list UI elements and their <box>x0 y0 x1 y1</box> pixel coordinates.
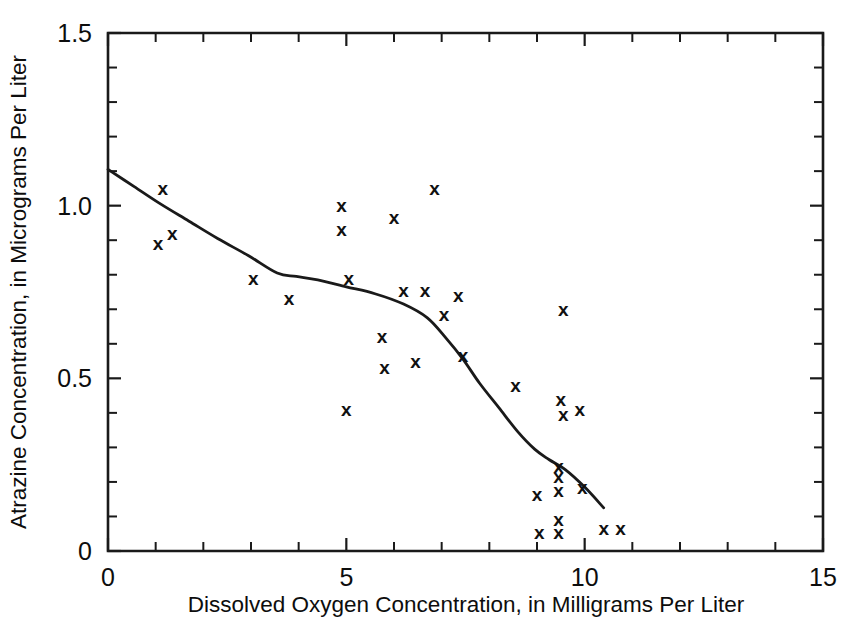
data-point-marker: x <box>398 280 409 301</box>
data-point-marker: x <box>377 326 388 347</box>
data-point-marker: x <box>429 178 440 199</box>
scatter-plot-svg: 05101500.51.01.5 xxxxxxxxxxxxxxxxxxxxxxx… <box>0 0 849 632</box>
x-tick-label: 10 <box>571 563 599 591</box>
data-point-marker: x <box>439 304 450 325</box>
y-tick-label: 0 <box>78 537 92 565</box>
x-tick-label: 15 <box>809 563 837 591</box>
x-axis-title: Dissolved Oxygen Concentration, in Milli… <box>188 592 745 617</box>
data-point-marker: x <box>153 233 164 254</box>
data-point-marker: x <box>343 268 354 289</box>
data-point-marker: x <box>534 522 545 543</box>
data-point-marker: x <box>410 351 421 372</box>
data-point-marker: x <box>575 399 586 420</box>
y-axis-title: Atrazine Concentration, in Micrograms Pe… <box>6 55 31 529</box>
y-tick-label: 1.0 <box>57 192 92 220</box>
data-point-marker: x <box>558 299 569 320</box>
data-point-marker: x <box>336 219 347 240</box>
data-point-marker: x <box>577 477 588 498</box>
data-point-marker: x <box>167 223 178 244</box>
data-point-marker: x <box>341 399 352 420</box>
data-point-marker: x <box>248 268 259 289</box>
data-point-marker: x <box>615 518 626 539</box>
data-point-marker: x <box>532 484 543 505</box>
data-point-marker: x <box>420 280 431 301</box>
data-point-marker: x <box>379 357 390 378</box>
data-point-marker: x <box>598 518 609 539</box>
data-point-marker: x <box>553 522 564 543</box>
y-tick-label: 1.5 <box>57 19 92 47</box>
data-point-marker: x <box>558 404 569 425</box>
y-tick-label: 0.5 <box>57 364 92 392</box>
data-point-marker: x <box>553 480 564 501</box>
data-point-marker: x <box>510 375 521 396</box>
x-tick-label: 5 <box>339 563 353 591</box>
data-point-marker: x <box>389 207 400 228</box>
chart-figure: 05101500.51.01.5 xxxxxxxxxxxxxxxxxxxxxxx… <box>0 0 849 632</box>
data-point-marker: x <box>158 178 169 199</box>
data-point-marker: x <box>453 285 464 306</box>
data-point-marker: x <box>458 345 469 366</box>
data-point-marker: x <box>336 195 347 216</box>
x-tick-label: 0 <box>101 563 115 591</box>
data-point-marker: x <box>284 288 295 309</box>
